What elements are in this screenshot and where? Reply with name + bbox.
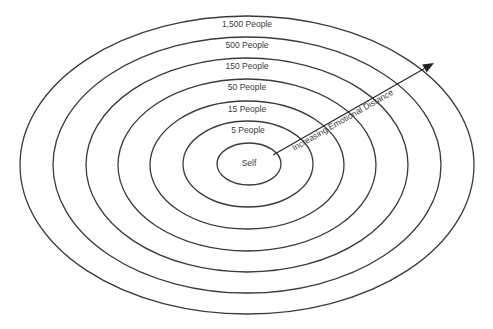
label-1500-people: 1,500 People <box>222 19 272 29</box>
label-15-people: 15 People <box>228 104 267 114</box>
diagram-canvas: 1,500 People 500 People 150 People 50 Pe… <box>0 0 493 329</box>
label-500-people: 500 People <box>225 40 268 50</box>
arrow-label: Increasing Emotional Distance <box>290 87 395 153</box>
label-50-people: 50 People <box>228 82 267 92</box>
distance-arrow: Increasing Emotional Distance <box>273 63 434 155</box>
label-self: Self <box>242 158 257 168</box>
emotional-distance-diagram: 1,500 People 500 People 150 People 50 Pe… <box>0 0 493 329</box>
label-150-people: 150 People <box>225 61 268 71</box>
label-5-people: 5 People <box>231 125 265 135</box>
